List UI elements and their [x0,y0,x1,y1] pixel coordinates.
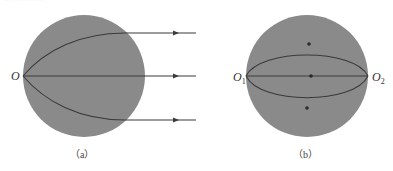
marker-dot [307,42,311,46]
arrow-icon [173,31,179,36]
diagram-canvas: ············· O （a） O1 O2 （b） [0,0,393,171]
label-o1: O1 [233,70,246,86]
origin-label-o: O [11,69,20,83]
caption-a: （a） [70,149,94,160]
marker-dot [309,74,313,78]
marker-dot [305,106,309,110]
arrow-icon [173,118,179,123]
panel-a: O （a） [11,15,196,160]
caption-b: （b） [293,149,318,160]
arrow-icon [173,74,179,79]
cropped-header-text: ············· [2,0,45,5]
panel-b: O1 O2 （b） [233,15,385,160]
label-o2: O2 [372,70,385,86]
